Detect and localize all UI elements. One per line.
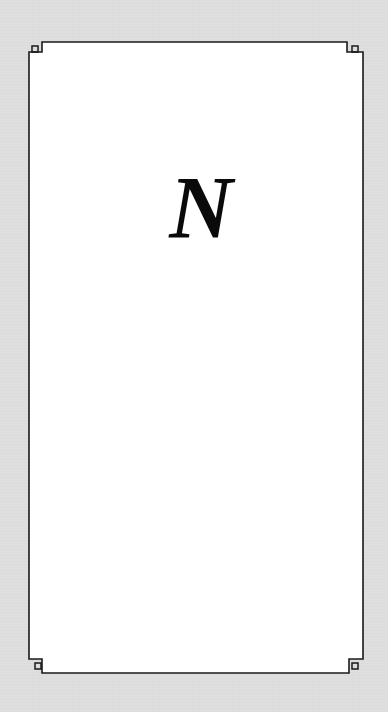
corner-knot-bottom-right-icon	[352, 663, 358, 669]
frame-panel	[29, 42, 363, 673]
corner-knot-top-left-icon	[32, 46, 38, 52]
ornamental-frame	[0, 0, 388, 712]
corner-knot-bottom-left-icon	[35, 663, 41, 669]
title-letter: N	[0, 158, 388, 258]
corner-knot-top-right-icon	[352, 46, 358, 52]
